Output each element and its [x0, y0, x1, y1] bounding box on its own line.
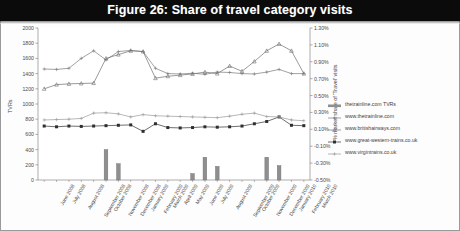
legend-key-plus-icon: [327, 146, 343, 158]
y-tick-label: 1000: [12, 101, 34, 107]
y-tick-label: 200: [12, 162, 34, 168]
legend-item[interactable]: www.virgintrains.co.uk: [327, 146, 455, 158]
y-tick-label: 1600: [12, 55, 34, 61]
chart-canvas: [38, 28, 310, 180]
legend-item[interactable]: www.britishairways.com: [327, 122, 455, 134]
y2-tick-label: 1.30%: [314, 25, 329, 31]
figure-screenshot: Figure 26: Share of travel category visi…: [0, 0, 460, 231]
y2-tick-label: 0.70%: [314, 76, 329, 82]
figure-title-bar: Figure 26: Share of travel category visi…: [0, 0, 460, 21]
y-tick-label: 1400: [12, 71, 34, 77]
legend-label: www.thetrainline.com: [345, 110, 394, 122]
y-tick-label: 1800: [12, 40, 34, 46]
y2-tick-label: -0.30%: [314, 160, 330, 166]
legend-key-square-icon: [327, 134, 343, 146]
legend-label: www.britishairways.com: [345, 122, 400, 134]
title-shadow: [0, 21, 460, 24]
legend-label: www.virgintrains.co.uk: [345, 146, 396, 158]
legend-label: www.great-western-trains.co.uk: [345, 134, 417, 146]
legend-key-plus-icon: [327, 110, 343, 122]
y-tick-label: 0: [12, 177, 34, 183]
chart-plot-area: [38, 28, 310, 180]
y-tick-label: 800: [12, 116, 34, 122]
legend-label: thetrainline.com TVRs: [345, 98, 396, 110]
chart-legend: thetrainline.com TVRswww.thetrainline.co…: [327, 98, 455, 158]
figure-title: Figure 26: Share of travel category visi…: [0, 0, 460, 21]
legend-item[interactable]: www.thetrainline.com: [327, 110, 455, 122]
y2-tick-label: 0.90%: [314, 59, 329, 65]
y-tick-label: 1200: [12, 86, 34, 92]
y2-tick-label: -0.50%: [314, 177, 330, 183]
y-tick-label: 2000: [12, 25, 34, 31]
y-tick-label: 600: [12, 131, 34, 137]
legend-item[interactable]: www.great-western-trains.co.uk: [327, 134, 455, 146]
legend-item[interactable]: thetrainline.com TVRs: [327, 98, 455, 110]
y-tick-label: 400: [12, 147, 34, 153]
legend-key-bar-icon: [327, 98, 343, 110]
legend-key-triangle-icon: [327, 122, 343, 134]
y2-tick-label: 1.10%: [314, 42, 329, 48]
